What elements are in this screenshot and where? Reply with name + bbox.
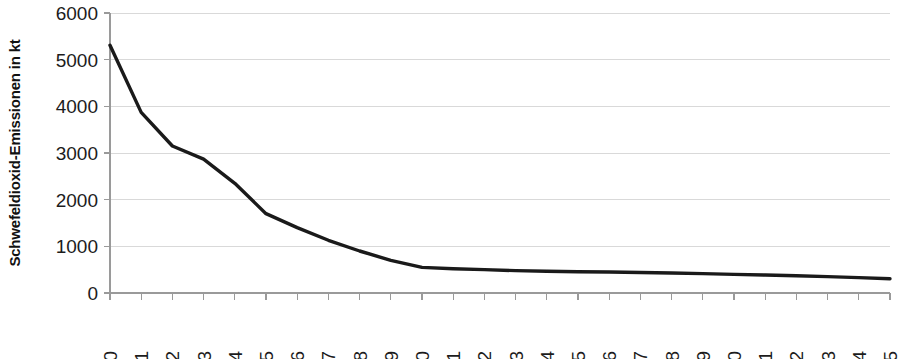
- x-tick-label: 2015: [880, 351, 900, 359]
- x-tick-label: 1999: [381, 351, 402, 359]
- x-tick-label: 2012: [786, 351, 807, 359]
- y-tick-label: 5000: [56, 50, 98, 71]
- x-tick-label: 1994: [225, 351, 246, 359]
- y-tick-label: 3000: [56, 143, 98, 164]
- x-tick-label: 2000: [412, 351, 433, 359]
- y-tick-label: 0: [87, 283, 98, 304]
- y-tick-label: 6000: [56, 3, 98, 24]
- x-tick-label: 2004: [537, 351, 558, 359]
- x-tick-label: 1990: [100, 351, 121, 359]
- x-tick-label: 1991: [131, 351, 152, 359]
- x-tick-label: 2014: [849, 351, 870, 359]
- chart-canvas: 0100020003000400050006000 19901991199219…: [0, 0, 900, 359]
- x-tick-label: 1992: [162, 351, 183, 359]
- x-tick-label: 2013: [818, 351, 839, 359]
- x-tick-label: 2006: [599, 351, 620, 359]
- x-tick-label: 2005: [568, 351, 589, 359]
- y-tick-label: 1000: [56, 236, 98, 257]
- x-tick-label: 2003: [506, 351, 527, 359]
- x-tick-label: 2008: [662, 351, 683, 359]
- x-tick-label: 1995: [256, 351, 277, 359]
- x-tick-label: 2010: [724, 351, 745, 359]
- x-tick-label: 1996: [287, 351, 308, 359]
- x-tick-label: 2002: [474, 351, 495, 359]
- sulfur-dioxide-emissions-chart: 0100020003000400050006000 19901991199219…: [0, 0, 900, 359]
- x-tick-label: 1993: [194, 351, 215, 359]
- y-tick-label: 4000: [56, 96, 98, 117]
- chart-background: [0, 0, 900, 359]
- x-tick-label: 2007: [630, 351, 651, 359]
- x-tick-label: 1997: [318, 351, 339, 359]
- x-tick-label: 2001: [443, 351, 464, 359]
- x-tick-label: 2011: [755, 351, 776, 359]
- x-tick-label: 1998: [350, 351, 371, 359]
- x-tick-label: 2009: [693, 351, 714, 359]
- y-axis-title: Schwefeldioxid-Emissionen in kt: [6, 39, 23, 266]
- y-tick-label: 2000: [56, 190, 98, 211]
